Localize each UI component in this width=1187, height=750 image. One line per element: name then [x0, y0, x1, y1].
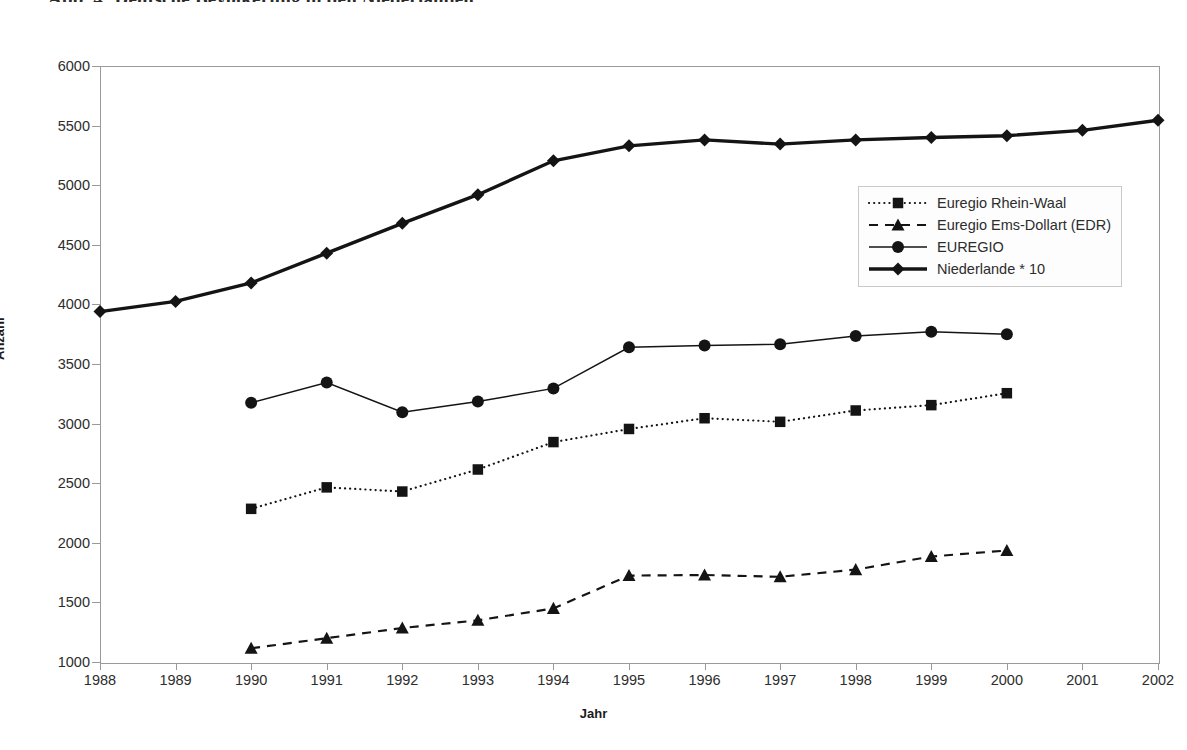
- circle-marker: [867, 239, 929, 255]
- circle-marker: [245, 397, 257, 409]
- square-marker: [473, 464, 484, 475]
- circle-marker: [321, 376, 333, 388]
- series-1: [246, 388, 1012, 514]
- circle-marker: [925, 326, 937, 338]
- circle-marker: [774, 338, 786, 350]
- circle-marker: [699, 340, 711, 352]
- diamond-marker: [245, 276, 258, 289]
- diamond-marker: [698, 133, 711, 146]
- circle-marker: [850, 330, 862, 342]
- diamond-marker: [547, 154, 560, 167]
- diamond-marker: [774, 138, 787, 151]
- square-marker: [246, 504, 257, 515]
- circle-marker: [472, 396, 484, 408]
- diamond-marker: [1000, 129, 1013, 142]
- diamond-marker: [1152, 114, 1165, 127]
- square-marker: [624, 424, 635, 435]
- square-marker: [1002, 388, 1013, 399]
- circle-marker: [396, 406, 408, 418]
- square-marker: [775, 417, 786, 428]
- diamond-marker: [849, 133, 862, 146]
- triangle-marker: [547, 602, 560, 614]
- square-marker: [548, 437, 559, 448]
- diamond-marker: [169, 295, 182, 308]
- square-marker: [397, 486, 408, 497]
- circle-marker: [623, 341, 635, 353]
- triangle-marker: [1000, 544, 1013, 556]
- diamond-marker: [867, 261, 929, 277]
- legend-item-1[interactable]: Euregio Rhein-Waal: [867, 192, 1111, 214]
- chart-legend: Euregio Rhein-WaalEuregio Ems-Dollart (E…: [858, 186, 1122, 287]
- chart-canvas: Anzahl Jahr 1000150020002500300035004000…: [0, 0, 1187, 750]
- triangle-marker: [867, 217, 929, 233]
- square-marker: [321, 482, 332, 493]
- legend-item-label: Niederlande * 10: [937, 261, 1045, 277]
- square-marker: [867, 195, 929, 211]
- square-marker: [850, 405, 861, 416]
- legend-item-2[interactable]: Euregio Ems-Dollart (EDR): [867, 214, 1111, 236]
- diamond-marker: [320, 247, 333, 260]
- diamond-marker: [396, 217, 409, 230]
- series-2: [245, 544, 1014, 654]
- diamond-marker: [925, 131, 938, 144]
- legend-item-4[interactable]: Niederlande * 10: [867, 258, 1111, 280]
- legend-item-label: Euregio Rhein-Waal: [937, 195, 1066, 211]
- diamond-marker: [471, 188, 484, 201]
- legend-item-3[interactable]: EUREGIO: [867, 236, 1111, 258]
- diamond-marker: [94, 305, 107, 318]
- square-marker: [699, 413, 710, 424]
- legend-item-label: Euregio Ems-Dollart (EDR): [937, 217, 1111, 233]
- legend-item-label: EUREGIO: [937, 239, 1004, 255]
- series-3: [245, 326, 1013, 418]
- circle-marker: [547, 382, 559, 394]
- circle-marker: [1001, 328, 1013, 340]
- series-layer: [0, 0, 1187, 750]
- diamond-marker: [623, 139, 636, 152]
- diamond-marker: [1076, 124, 1089, 137]
- square-marker: [926, 400, 937, 411]
